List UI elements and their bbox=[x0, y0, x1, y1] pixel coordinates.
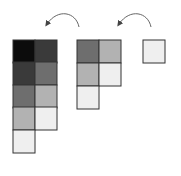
right-single bbox=[143, 40, 165, 63]
grid-cell bbox=[143, 40, 165, 63]
left-staircase bbox=[13, 40, 57, 153]
arrow-middle-to-left-icon bbox=[47, 14, 79, 27]
diagram-canvas bbox=[0, 0, 181, 176]
grid-cell bbox=[13, 130, 35, 153]
grid-cell bbox=[13, 62, 35, 85]
middle-staircase bbox=[77, 40, 121, 109]
curved-arrows bbox=[47, 14, 151, 27]
grid-cell bbox=[77, 63, 99, 86]
grid-cell bbox=[35, 107, 57, 130]
grid-cell bbox=[77, 86, 99, 109]
grid-cell bbox=[77, 40, 99, 63]
grid-cell bbox=[99, 63, 121, 86]
grid-cell bbox=[35, 62, 57, 85]
grid-cell bbox=[13, 107, 35, 130]
grid-cell bbox=[35, 85, 57, 108]
cell-groups bbox=[13, 40, 165, 153]
grid-cell bbox=[99, 40, 121, 63]
grid-cell bbox=[13, 85, 35, 108]
arrow-right-to-middle-icon bbox=[119, 14, 151, 27]
grid-cell bbox=[13, 40, 35, 63]
grid-cell bbox=[35, 40, 57, 63]
